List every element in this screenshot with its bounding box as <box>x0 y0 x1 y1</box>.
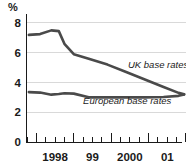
y-axis-tick-label: 4 <box>15 77 22 89</box>
x-axis-tick-label: 1998 <box>42 151 68 163</box>
y-axis-tick-label: 8 <box>15 17 22 29</box>
x-axis-tick-label: 99 <box>86 151 99 163</box>
chart-canvas: 02468 % 199899200001 UK base ratesEurope… <box>0 0 186 168</box>
x-tick-labels-group: 199899200001 <box>42 151 174 163</box>
y-axis-tick-label: 2 <box>15 106 21 118</box>
y-axis-tick-label: 6 <box>15 47 21 59</box>
y-axis-tick-label: 0 <box>15 136 21 148</box>
y-axis-unit-label: % <box>8 1 18 13</box>
base-rates-chart: 02468 % 199899200001 UK base ratesEurope… <box>0 0 186 168</box>
x-ticks-group <box>27 133 186 142</box>
x-axis-tick-label: 2000 <box>117 151 143 163</box>
x-axis-tick-label: 01 <box>161 151 174 163</box>
series-annotation-label: UK base rates <box>128 59 186 70</box>
series-annotation-label: European base rates <box>83 95 171 106</box>
y-tick-labels-group: 02468 <box>15 17 22 148</box>
